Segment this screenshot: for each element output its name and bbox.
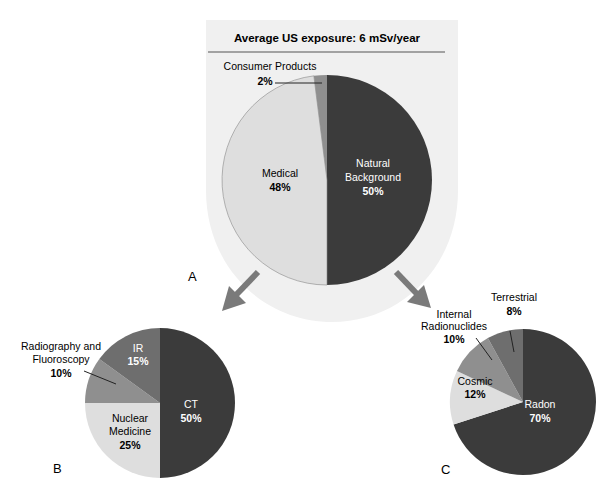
label-nuclear-1: Nuclear: [112, 412, 149, 424]
label-natural-1: Natural: [356, 157, 390, 169]
pct-natural: 50%: [362, 185, 384, 197]
label-consumer-products: Consumer Products: [224, 60, 317, 72]
pct-nuclear: 25%: [119, 439, 141, 451]
label-radiography-1: Radiography and: [21, 340, 101, 352]
label-natural-2: Background: [345, 171, 401, 183]
pct-internal: 10%: [443, 333, 465, 345]
pct-ct: 50%: [180, 412, 202, 424]
pct-cosmic: 12%: [464, 388, 486, 400]
label-radon: Radon: [525, 398, 556, 410]
label-ir: IR: [133, 342, 144, 354]
label-medical: Medical: [262, 167, 298, 179]
chart-title: Average US exposure: 6 mSv/year: [234, 32, 421, 44]
pie-c: [450, 329, 596, 475]
label-internal-1: Internal: [436, 308, 471, 320]
pie-b: [84, 328, 235, 478]
label-internal-2: Radionuclides: [421, 320, 487, 332]
label-nuclear-2: Medicine: [109, 425, 151, 437]
panel-letter-c: C: [441, 462, 450, 477]
label-cosmic: Cosmic: [457, 375, 492, 387]
diagram-canvas: Average US exposure: 6 mSv/year Consumer…: [0, 0, 613, 496]
pct-radon: 70%: [529, 412, 551, 424]
label-terrestrial: Terrestrial: [491, 291, 537, 303]
pct-ir: 15%: [127, 355, 149, 367]
panel-letter-b: B: [53, 461, 62, 476]
pct-radiography: 10%: [50, 367, 72, 379]
label-ct: CT: [184, 398, 199, 410]
pct-medical: 48%: [269, 181, 291, 193]
pct-consumer-products: 2%: [257, 75, 273, 87]
label-radiography-2: Fluoroscopy: [32, 353, 90, 365]
pct-terrestrial: 8%: [506, 305, 522, 317]
panel-letter-a: A: [188, 269, 197, 284]
